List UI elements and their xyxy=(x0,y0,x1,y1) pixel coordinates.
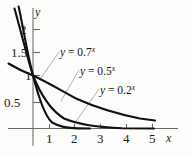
y-tick-label-0p5: 0.5 xyxy=(4,96,20,109)
y-axis-label: y xyxy=(35,6,40,18)
curve-label-0p7: y = 0.7x xyxy=(60,45,95,58)
y-tick-label-2: 2 xyxy=(20,23,27,36)
x-tick-label-4: 4 xyxy=(123,132,130,145)
curve-label-0p2: y = 0.2x xyxy=(100,83,135,96)
curve-label-0p2-exponent: x xyxy=(132,83,135,92)
curve-label-0p7-equation: = 0.7 xyxy=(65,46,92,58)
x-axis-label: x xyxy=(166,132,171,144)
x-tick-label-5: 5 xyxy=(149,132,156,145)
x-tick-label-3: 3 xyxy=(97,132,104,145)
x-tick-label-2: 2 xyxy=(71,132,78,145)
y-tick-label-1p5: 1.5 xyxy=(11,46,27,59)
leader-line-0p7 xyxy=(41,52,59,78)
exponential-decay-figure: 2 1.5 1 0.5 1 2 3 4 5 y x y = 0.7x y = 0… xyxy=(0,0,193,155)
leader-lines xyxy=(41,52,99,124)
curve-label-0p2-equation: = 0.2 xyxy=(105,84,132,96)
curve-label-0p5-equation: = 0.5 xyxy=(85,65,112,77)
x-tick-label-1: 1 xyxy=(46,132,53,145)
curve-label-0p5-exponent: x xyxy=(112,64,115,73)
y-tick-label-1: 1 xyxy=(25,69,32,82)
curve-label-0p5: y = 0.5x xyxy=(80,64,115,77)
curve-label-0p7-exponent: x xyxy=(92,45,95,54)
